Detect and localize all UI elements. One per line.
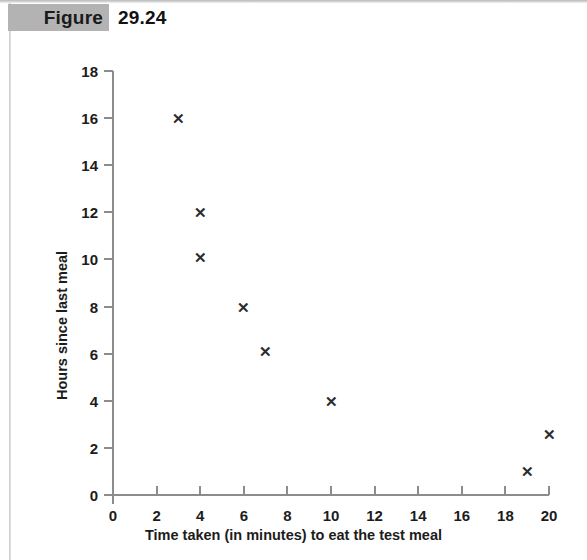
x-tick-mark — [548, 486, 550, 495]
y-tick-label: 0 — [65, 487, 98, 504]
figure-page: Figure 29.24 024681012141618200246810121… — [0, 0, 587, 560]
data-point-marker: ✕ — [194, 250, 207, 265]
y-tick-mark — [104, 70, 113, 72]
data-point-marker: ✕ — [237, 299, 250, 314]
x-tick-label: 6 — [240, 507, 248, 524]
data-point-marker: ✕ — [521, 464, 534, 479]
x-tick-mark — [417, 486, 419, 495]
y-tick-mark — [104, 447, 113, 449]
data-point-marker: ✕ — [259, 344, 272, 359]
y-tick-mark — [104, 164, 113, 166]
x-tick-label: 12 — [366, 507, 383, 524]
x-tick-label: 20 — [541, 507, 558, 524]
y-axis-label: Hours since last meal — [54, 251, 70, 400]
x-tick-mark — [461, 486, 463, 495]
x-tick-mark — [243, 486, 245, 495]
x-tick-mark — [156, 486, 158, 495]
y-tick-label: 14 — [65, 157, 98, 174]
x-tick-mark — [330, 486, 332, 495]
y-tick-mark — [104, 117, 113, 119]
x-tick-mark — [374, 486, 376, 495]
x-tick-label: 2 — [152, 507, 160, 524]
data-point-marker: ✕ — [325, 393, 338, 408]
x-tick-label: 8 — [283, 507, 291, 524]
y-tick-mark — [104, 400, 113, 402]
y-tick-label: 2 — [65, 439, 98, 456]
x-tick-mark — [199, 486, 201, 495]
x-tick-label: 18 — [497, 507, 514, 524]
x-tick-label: 16 — [453, 507, 470, 524]
y-axis-line — [112, 71, 114, 495]
y-tick-label: 18 — [65, 63, 98, 80]
y-tick-mark — [104, 353, 113, 355]
x-tick-mark — [286, 486, 288, 495]
x-tick-label: 4 — [196, 507, 204, 524]
data-point-marker: ✕ — [172, 111, 185, 126]
data-point-marker: ✕ — [194, 205, 207, 220]
y-tick-mark — [104, 211, 113, 213]
x-tick-label: 10 — [323, 507, 340, 524]
x-tick-mark — [504, 486, 506, 495]
scatter-plot: 02468101214161820024681012141618 ✕✕✕✕✕✕✕… — [0, 0, 587, 560]
x-tick-label: 14 — [410, 507, 427, 524]
y-tick-label: 16 — [65, 110, 98, 127]
x-tick-label: 0 — [109, 507, 117, 524]
y-tick-label: 12 — [65, 204, 98, 221]
x-axis-label: Time taken (in minutes) to eat the test … — [0, 527, 587, 543]
y-tick-mark — [104, 258, 113, 260]
y-tick-mark — [104, 306, 113, 308]
y-tick-mark — [104, 494, 122, 496]
data-point-marker: ✕ — [543, 426, 556, 441]
